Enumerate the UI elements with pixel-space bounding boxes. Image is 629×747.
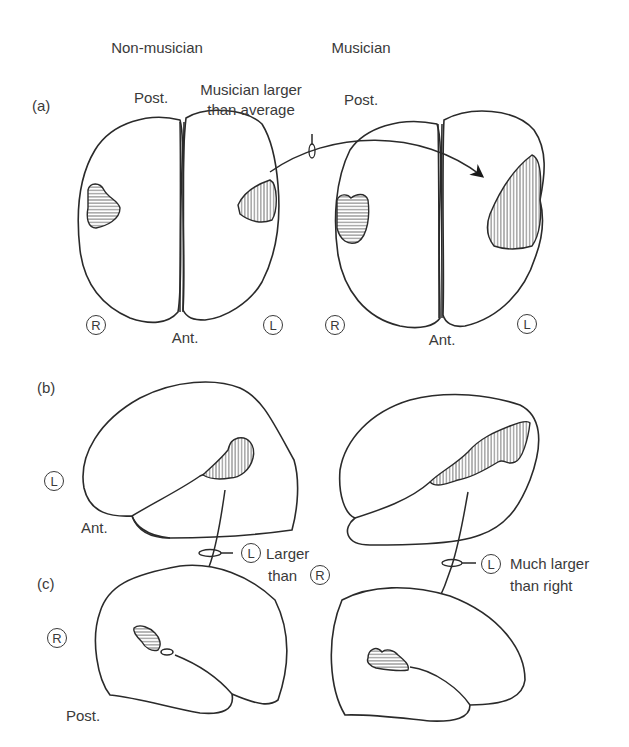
bc-left-annotation-line1: Larger	[266, 546, 309, 561]
a-musician-ant-label: Ant.	[429, 332, 456, 347]
c-right-mark: R	[47, 628, 67, 648]
bc-right-annotation-line2: than right	[510, 578, 573, 593]
a-nonmusician-ant-label: Ant.	[172, 330, 199, 345]
lateral-right-hemisphere-outline	[95, 565, 286, 713]
bc-left-l-mark: L	[241, 543, 261, 563]
a-musician-post-label: Post.	[344, 92, 378, 107]
a-nonmusician-right-mark: R	[86, 315, 106, 335]
b-left-mark: L	[44, 471, 64, 491]
lateral-right-hemisphere-outline	[331, 588, 525, 721]
bc-left-ellipse	[199, 550, 221, 557]
bc-left-annotation-line2: than	[268, 568, 297, 583]
a-musician-right-mark: R	[325, 315, 345, 335]
a-nonmusician-post-label: Post.	[134, 90, 168, 105]
a-nonmusician-brain	[78, 110, 279, 322]
brain-asymmetry-figure: Non-musician Musician (a) (b) (c) Post. …	[0, 0, 629, 747]
a-musician-brain	[336, 111, 545, 327]
b-ant-label: Ant.	[81, 520, 108, 535]
panel-label-a: (a)	[32, 98, 50, 113]
b-musician-brain	[340, 395, 539, 545]
right-planum-region	[337, 195, 369, 244]
bc-right-l-mark: L	[481, 554, 501, 574]
a-annotation-line1: Musician larger	[200, 82, 302, 97]
bc-right-annotation-line1: Much larger	[510, 556, 589, 571]
column-header-nonmusician: Non-musician	[111, 40, 203, 55]
lateral-left-hemisphere-outline	[340, 395, 539, 545]
panel-label-b: (b)	[37, 380, 55, 395]
lateral-left-hemisphere-outline	[83, 382, 298, 538]
panel-label-c: (c)	[37, 576, 55, 591]
c-nonmusician-brain	[95, 565, 286, 713]
c-musician-brain	[331, 588, 525, 721]
c-post-label: Post.	[66, 708, 100, 723]
bc-left-r-mark: R	[310, 565, 330, 585]
a-musician-left-mark: L	[517, 314, 537, 334]
a-annotation-line2: than average	[207, 102, 295, 117]
column-header-musician: Musician	[331, 40, 390, 55]
b-nonmusician-brain	[83, 382, 298, 538]
figure-drawing	[0, 0, 629, 747]
a-nonmusician-left-mark: L	[263, 315, 283, 335]
